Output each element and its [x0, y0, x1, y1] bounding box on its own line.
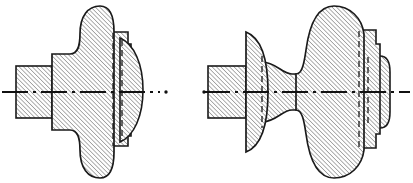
drawing-sheet: [0, 0, 413, 183]
centerline-tail-dot: [164, 90, 167, 93]
technical-drawing-canvas: [0, 0, 413, 183]
